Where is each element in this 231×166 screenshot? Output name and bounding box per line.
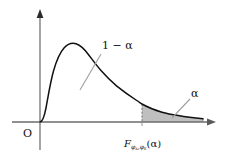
alpha-region-leader-line (172, 99, 190, 118)
x-axis-arrowhead (207, 119, 216, 126)
alpha-tail-shaded-region (142, 104, 203, 122)
critical-value-label: FφA,φE(α) (124, 139, 161, 151)
f-distribution-figure: O 1 − α α FφA,φE(α) (0, 0, 231, 166)
alpha-region-label: α (191, 88, 198, 99)
body-region-leader-line (80, 54, 101, 90)
body-region-label: 1 − α (102, 40, 133, 51)
f-density-curve (40, 43, 203, 122)
critical-value-f-symbol: F (124, 138, 131, 149)
critical-value-subscript-group: φA,φE (131, 143, 147, 150)
f-distribution-plot (0, 0, 231, 166)
critical-value-argument: (α) (147, 138, 162, 149)
origin-label: O (23, 128, 32, 139)
y-axis-arrowhead (37, 9, 44, 18)
